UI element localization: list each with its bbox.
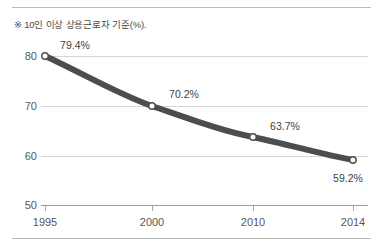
data-label-2000: 70.2% <box>169 88 199 100</box>
data-point-2000 <box>149 103 155 109</box>
figure-bottom-rule <box>12 238 371 239</box>
data-point-2014 <box>350 157 356 163</box>
data-point-2010 <box>250 134 256 140</box>
series-line <box>45 56 353 160</box>
data-label-2010: 63.7% <box>270 120 300 132</box>
data-label-1995: 79.4% <box>60 39 90 51</box>
series-line-chart <box>0 0 383 251</box>
data-label-2014: 59.2% <box>333 172 363 184</box>
plot-area: 80 70 60 50 1995 2000 2010 2014 79.4% 70… <box>0 0 383 251</box>
data-point-1995 <box>42 53 48 59</box>
chart-figure: ※ 10인 이상 상용근로자 기준(%). 80 70 60 50 1995 2… <box>0 0 383 251</box>
